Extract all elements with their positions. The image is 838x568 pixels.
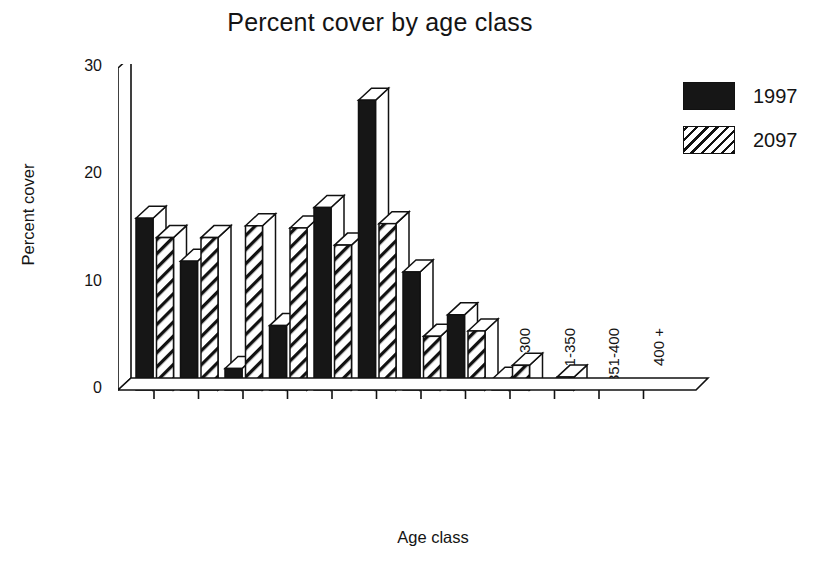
bars-svg [118,64,712,428]
bar-front-face [290,228,307,390]
plot-area [118,64,712,428]
bar-front-face [181,261,198,390]
y-tick-label: 20 [68,164,102,182]
legend-item-2097[interactable]: 2097 [683,118,798,162]
chart-title: Percent cover by age class [0,8,760,37]
bar-front-face [403,272,420,390]
y-axis-title: Percent cover [19,125,38,305]
bar-front-face [379,224,396,390]
legend-label: 2097 [753,129,798,152]
legend-label: 1997 [753,85,798,108]
y-tick-label: 30 [68,57,102,75]
chart-figure: Percent cover by age class Percent cover… [0,0,838,568]
y-tick-label: 10 [68,272,102,290]
x-axis-3d-floor [118,378,708,390]
y-axis-3d-column [118,64,131,390]
bar-front-face [201,238,218,390]
legend: 19972097 [683,74,798,162]
x-axis-title: Age class [268,528,598,547]
diagonal-hatch-swatch [683,126,735,154]
solid-black-swatch [683,82,735,110]
bar-front-face [246,226,263,390]
bar-front-face [335,245,352,390]
bar-front-face [136,218,153,390]
bar-front-face [157,238,174,390]
bar-2097-21-40 [201,226,231,390]
legend-item-1997[interactable]: 1997 [683,74,798,118]
y-tick-label: 0 [68,379,102,397]
bar-front-face [314,208,331,390]
bar-front-face [359,100,376,390]
